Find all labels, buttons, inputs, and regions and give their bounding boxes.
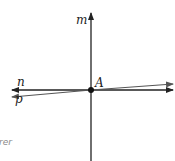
label-p: p xyxy=(15,92,23,106)
label-m: m xyxy=(76,13,87,27)
label-a: A xyxy=(94,76,104,90)
point-a xyxy=(88,87,94,93)
line-p-left xyxy=(12,90,91,97)
cutoff-text: rer xyxy=(0,137,13,147)
label-n: n xyxy=(17,75,25,89)
geometry-diagram: m n p A rer xyxy=(0,0,175,161)
